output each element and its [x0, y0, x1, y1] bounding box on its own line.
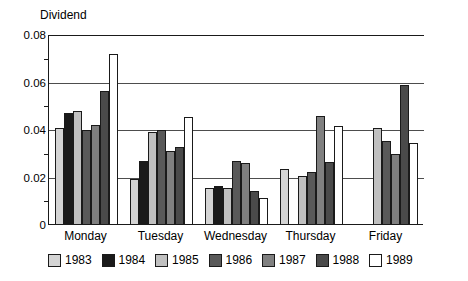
bar-wednesday-1986 — [232, 161, 241, 225]
legend-swatch-1986 — [209, 254, 222, 267]
legend-label-1985: 1985 — [172, 253, 199, 267]
bar-thursday-1985 — [298, 176, 307, 225]
legend-item-1985[interactable]: 1985 — [155, 252, 199, 268]
x-axis-label-wednesday: Wednesday — [198, 229, 273, 243]
bar-monday-1985 — [73, 111, 82, 225]
bar-wednesday-1987 — [241, 163, 250, 225]
x-axis-label-monday: Monday — [48, 229, 123, 243]
bar-monday-1987 — [91, 125, 100, 225]
bar-tuesday-1989 — [184, 117, 193, 225]
y-axis-tick-label: 0.06 — [2, 77, 46, 89]
bar-tuesday-1985 — [148, 132, 157, 225]
bar-friday-1986 — [382, 141, 391, 225]
bar-thursday-1983 — [280, 169, 289, 225]
legend-label-1983: 1983 — [65, 253, 92, 267]
bar-wednesday-1983 — [205, 188, 214, 225]
legend-item-1988[interactable]: 1988 — [316, 252, 360, 268]
legend-swatch-1983 — [48, 254, 61, 267]
bar-tuesday-1986 — [157, 130, 166, 225]
legend-item-1987[interactable]: 1987 — [262, 252, 306, 268]
legend-swatch-1988 — [316, 254, 329, 267]
bar-thursday-1987 — [316, 116, 325, 225]
bar-monday-1988 — [100, 91, 109, 225]
bar-friday-1985 — [373, 128, 382, 225]
bar-tuesday-1987 — [166, 151, 175, 225]
bars-layer — [49, 35, 424, 225]
bar-friday-1987 — [391, 154, 400, 225]
legend-label-1989: 1989 — [386, 253, 413, 267]
plot-area — [48, 35, 423, 225]
y-axis-tick-label: 0.02 — [2, 172, 46, 184]
y-axis-tick-label: 0 — [2, 220, 46, 232]
bar-thursday-1986 — [307, 172, 316, 225]
bar-monday-1984 — [64, 113, 73, 225]
bar-friday-1988 — [400, 85, 409, 225]
bar-tuesday-1984 — [139, 161, 148, 225]
bar-tuesday-1988 — [175, 147, 184, 225]
legend-item-1986[interactable]: 1986 — [209, 252, 253, 268]
bar-wednesday-1985 — [223, 188, 232, 225]
bar-tuesday-1983 — [130, 179, 139, 225]
bar-monday-1989 — [109, 54, 118, 225]
legend-label-1988: 1988 — [333, 253, 360, 267]
legend-item-1989[interactable]: 1989 — [369, 252, 413, 268]
bar-thursday-1988 — [325, 162, 334, 225]
legend-swatch-1984 — [102, 254, 115, 267]
legend-label-1987: 1987 — [279, 253, 306, 267]
bar-wednesday-1988 — [250, 191, 259, 225]
bar-wednesday-1989 — [259, 198, 268, 225]
y-axis-tick-labels: 00.020.040.060.08 — [0, 35, 46, 225]
legend-label-1986: 1986 — [226, 253, 253, 267]
x-axis-label-friday: Friday — [348, 229, 423, 243]
bar-monday-1986 — [82, 130, 91, 225]
bar-wednesday-1984 — [214, 186, 223, 225]
bar-friday-1989 — [409, 143, 418, 225]
legend-swatch-1989 — [369, 254, 382, 267]
y-axis-tick-label: 0.08 — [2, 30, 46, 42]
legend-swatch-1987 — [262, 254, 275, 267]
y-axis-title: Dividend — [40, 8, 87, 22]
legend-label-1984: 1984 — [119, 253, 146, 267]
y-axis-tick-label: 0.04 — [2, 125, 46, 137]
legend-item-1983[interactable]: 1983 — [48, 252, 92, 268]
dividend-bar-chart: Dividend 00.020.040.060.08 MondayTuesday… — [0, 0, 468, 281]
x-axis-category-labels: MondayTuesdayWednesdayThursdayFriday — [48, 229, 423, 247]
bar-thursday-1989 — [334, 126, 343, 225]
x-axis-label-thursday: Thursday — [273, 229, 348, 243]
legend-item-1984[interactable]: 1984 — [102, 252, 146, 268]
bar-monday-1983 — [55, 128, 64, 225]
x-axis-label-tuesday: Tuesday — [123, 229, 198, 243]
legend-swatch-1985 — [155, 254, 168, 267]
chart-legend: 1983198419851986198719881989 — [48, 252, 428, 270]
